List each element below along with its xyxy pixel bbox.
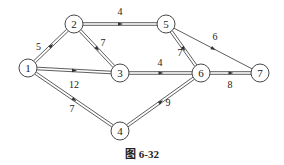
edge-3-6: 4 [129,57,192,75]
node-label: 2 [71,18,77,30]
node-1: 1 [19,59,37,77]
edge-weight-label: 12 [69,79,79,90]
edge-weight-label: 5 [36,41,41,52]
edge-1-3: 12 [37,67,111,90]
node-label: 5 [163,18,169,30]
edge-weight-label: 8 [228,79,233,90]
edge-5-6: 7 [170,31,197,67]
edge-5-7: 6 [174,28,252,69]
edge-2-5: 4 [83,6,157,26]
node-2: 2 [65,15,83,33]
node-7: 7 [251,64,269,82]
network-diagram: 51274749768 1234567 [0,0,284,165]
edge-1-2: 5 [34,29,69,62]
node-label: 3 [117,67,123,79]
node-5: 5 [157,15,175,33]
edge-weight-label: 7 [101,37,106,48]
edge-weight-label: 7 [178,47,183,58]
node-label: 4 [117,125,123,137]
edge-weight-label: 6 [213,31,218,42]
node-label: 1 [25,62,31,74]
nodes-layer: 1234567 [19,15,269,140]
edge-weight-label: 7 [70,103,75,114]
node-4: 4 [111,122,129,140]
edge-weight-label: 4 [158,57,163,68]
edge-6-7: 8 [210,71,251,90]
arrow-icon [210,46,215,50]
node-label: 6 [198,67,204,79]
edge-4-6: 9 [127,77,195,127]
edge-weight-label: 9 [166,97,171,108]
edge-weight-label: 4 [118,6,123,17]
figure-caption: 图 6-32 [0,145,284,161]
node-6: 6 [192,64,210,82]
edge-2-3: 7 [79,30,115,68]
node-label: 7 [257,67,263,79]
node-3: 3 [111,64,129,82]
